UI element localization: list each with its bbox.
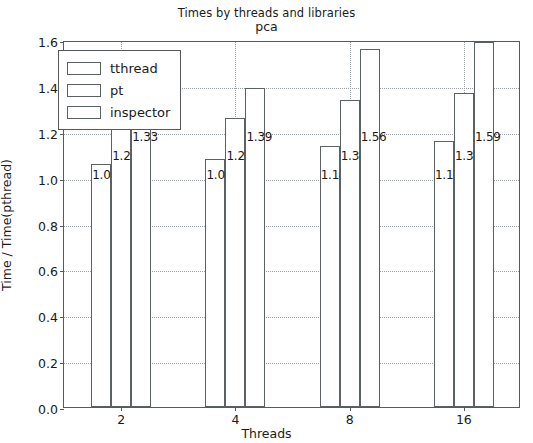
y-tick-label: 0.4 (38, 310, 58, 325)
legend-label: tthread (110, 61, 158, 76)
chart-title: Times by threads and libraries (0, 7, 533, 20)
y-tick-label: 0.8 (38, 218, 58, 233)
y-axis-label: Time / Time(pthread) (0, 159, 14, 291)
bar (320, 146, 340, 407)
bar-value-label: 1.59 (475, 130, 501, 144)
y-tick-label: 1.0 (38, 172, 58, 187)
x-axis-label: Threads (0, 426, 533, 441)
x-tick-mark (235, 407, 236, 411)
y-tick-mark (60, 317, 64, 318)
bar-value-label: 1.56 (361, 130, 387, 144)
bar-value-label: 1.33 (132, 130, 158, 144)
y-tick-mark (60, 271, 64, 272)
legend-label: pt (110, 83, 123, 98)
bar-value-label: 1.39 (246, 130, 272, 144)
bar (454, 93, 474, 407)
y-tick-label: 1.4 (38, 80, 58, 95)
x-tick-mark (121, 407, 122, 411)
x-tick-mark (350, 407, 351, 411)
bar (131, 102, 151, 407)
legend-swatch-icon (67, 62, 101, 75)
y-tick-mark (60, 180, 64, 181)
legend-label: inspector (110, 105, 170, 120)
y-tick-label: 1.2 (38, 126, 58, 141)
x-tick-mark (464, 407, 465, 411)
bar (205, 159, 225, 407)
y-tick-mark (60, 409, 64, 410)
x-tick-label: 8 (346, 412, 354, 427)
bar (360, 49, 380, 407)
x-tick-label: 4 (231, 412, 239, 427)
y-tick-mark (60, 134, 64, 135)
y-tick-mark (60, 226, 64, 227)
chart-title-block: Times by threads and libraries pca (0, 7, 533, 34)
chart-legend[interactable]: tthreadptinspector (58, 50, 181, 130)
chart-subtitle: pca (0, 20, 533, 34)
legend-swatch-icon (67, 106, 101, 119)
legend-item-inspector[interactable]: inspector (67, 101, 170, 123)
legend-item-tthread[interactable]: tthread (67, 57, 170, 79)
legend-item-pt[interactable]: pt (67, 79, 170, 101)
x-tick-label: 2 (117, 412, 125, 427)
bar (111, 123, 131, 407)
y-tick-label: 0.0 (38, 402, 58, 417)
legend-swatch-icon (67, 84, 101, 97)
y-tick-label: 0.2 (38, 356, 58, 371)
bar (474, 42, 494, 407)
bar (340, 100, 360, 407)
y-tick-label: 1.6 (38, 35, 58, 50)
y-tick-mark (60, 42, 64, 43)
bar (91, 164, 111, 407)
x-tick-label: 16 (456, 412, 472, 427)
y-tick-mark (60, 363, 64, 364)
y-tick-label: 0.6 (38, 264, 58, 279)
chart-figure: Times by threads and libraries pca Time … (0, 0, 533, 443)
